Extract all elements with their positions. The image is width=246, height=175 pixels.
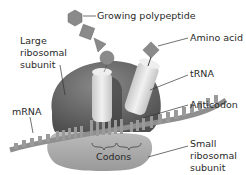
label-small-subunit-2: ribosomal [190,150,237,161]
label-amino-acid: Amino acid [190,32,243,43]
label-trna: tRNA [190,68,214,79]
label-small-subunit-3: subunit [190,162,225,173]
label-small-subunit-1: Small [190,138,216,149]
trna-left [92,68,112,122]
label-anticodon: Anticodon [190,99,238,110]
label-large-subunit-2: ribosomal [20,47,67,58]
label-large-subunit-1: Large [20,35,47,46]
label-mrna: mRNA [12,106,41,117]
label-codons: Codons [96,151,131,162]
label-large-subunit-3: subunit [20,59,55,70]
label-growing-polypeptide: Growing polypeptide [97,10,196,21]
